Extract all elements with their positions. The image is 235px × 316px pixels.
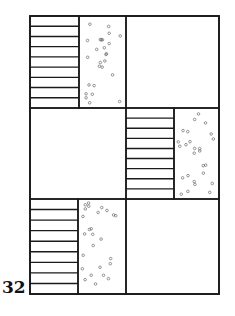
hatched-block bbox=[30, 16, 79, 108]
dot bbox=[103, 46, 106, 49]
dot bbox=[208, 191, 211, 194]
dotted-block bbox=[174, 108, 219, 199]
dot bbox=[177, 141, 180, 144]
dot bbox=[82, 215, 85, 218]
quilt-pattern-figure bbox=[0, 0, 235, 316]
dot bbox=[181, 177, 184, 180]
dot bbox=[193, 147, 196, 150]
dot bbox=[86, 39, 89, 42]
dot bbox=[83, 233, 86, 236]
dot bbox=[210, 133, 213, 136]
dot bbox=[197, 113, 200, 116]
dot bbox=[94, 283, 97, 286]
dot bbox=[108, 32, 111, 35]
dot bbox=[204, 122, 207, 125]
dot bbox=[81, 267, 84, 270]
dot bbox=[91, 233, 94, 236]
dot bbox=[186, 130, 189, 133]
dot bbox=[92, 244, 95, 247]
dot bbox=[100, 206, 103, 209]
dot bbox=[99, 266, 102, 269]
blank-block bbox=[126, 16, 219, 108]
dot bbox=[99, 61, 102, 64]
hatched-block bbox=[30, 199, 78, 294]
dot bbox=[84, 208, 87, 211]
dot bbox=[84, 278, 87, 281]
dot bbox=[202, 172, 205, 175]
dot bbox=[193, 152, 196, 155]
dot bbox=[105, 52, 108, 55]
blank-block bbox=[30, 108, 126, 199]
dot bbox=[193, 180, 196, 183]
dot bbox=[182, 129, 185, 132]
dotted-block bbox=[78, 199, 126, 294]
dot bbox=[88, 84, 91, 87]
dot bbox=[107, 277, 110, 280]
dot bbox=[104, 60, 107, 63]
dot bbox=[82, 254, 85, 257]
dot bbox=[87, 205, 90, 208]
dot bbox=[106, 209, 109, 212]
dot bbox=[100, 238, 103, 241]
dot bbox=[118, 100, 121, 103]
dot bbox=[85, 97, 88, 100]
dot bbox=[108, 42, 111, 45]
dot bbox=[107, 25, 110, 28]
dot bbox=[187, 174, 190, 177]
dot bbox=[193, 118, 196, 121]
dot bbox=[91, 93, 94, 96]
dot bbox=[95, 48, 98, 51]
dot bbox=[86, 56, 89, 59]
dot bbox=[88, 101, 91, 104]
dot bbox=[101, 66, 104, 69]
dot bbox=[85, 93, 88, 96]
dot bbox=[178, 145, 181, 148]
dot bbox=[111, 74, 114, 77]
dot bbox=[185, 143, 188, 146]
dot bbox=[84, 204, 87, 207]
dot bbox=[204, 164, 207, 167]
dot bbox=[189, 140, 192, 143]
dot bbox=[212, 138, 215, 141]
dot bbox=[89, 23, 92, 26]
dot bbox=[109, 262, 112, 265]
dotted-block bbox=[79, 16, 126, 108]
dot bbox=[211, 182, 214, 185]
dot bbox=[119, 35, 122, 38]
dot bbox=[102, 274, 105, 277]
dot bbox=[187, 190, 190, 193]
dot bbox=[109, 257, 112, 260]
dot bbox=[194, 183, 197, 186]
dot bbox=[97, 211, 100, 214]
hatched-block bbox=[126, 108, 174, 199]
blank-block bbox=[126, 199, 219, 294]
dot bbox=[93, 84, 96, 87]
dot bbox=[98, 65, 101, 68]
dot bbox=[90, 274, 93, 277]
dot bbox=[180, 193, 183, 196]
figure-number: 32 bbox=[2, 277, 26, 297]
dot bbox=[87, 202, 90, 205]
